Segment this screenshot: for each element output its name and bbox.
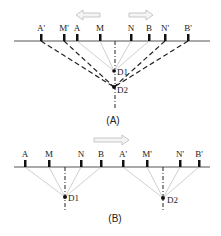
- electrode-label: B: [146, 23, 152, 33]
- electrode-labels: A' M' A M N B N' B': [37, 23, 192, 33]
- electrode-label: M: [96, 23, 104, 33]
- d1-ray-lines: [77, 41, 149, 71]
- arrow-left-icon: [76, 10, 100, 20]
- electrode-label: N: [78, 149, 85, 159]
- electrode-label: N': [161, 23, 169, 33]
- d2-ray-lines: [123, 167, 199, 198]
- electrode-label: A: [74, 23, 81, 33]
- depth-label-d2: D2: [167, 195, 178, 205]
- electrode-label: M': [142, 149, 152, 159]
- panel-a-caption: (A): [106, 115, 119, 126]
- depth-point-d1: [112, 69, 116, 73]
- panel-b-caption: (B): [108, 213, 121, 224]
- depth-point-d2: [112, 85, 116, 89]
- d1-ray-lines: [25, 167, 101, 197]
- electrode-label: M': [59, 23, 69, 33]
- electrode-label: B': [195, 149, 203, 159]
- electrode-label: A': [37, 23, 45, 33]
- electrode-label: N': [176, 149, 184, 159]
- depth-label-d2: D2: [117, 85, 128, 95]
- electrode-label: N: [128, 23, 135, 33]
- electrode-array-diagram: A' M' A M N B N' B' D1 D2 (A): [0, 0, 221, 236]
- depth-label-d1: D1: [68, 193, 79, 203]
- depth-label-d1: D1: [117, 67, 128, 77]
- electrode-label: B: [98, 149, 104, 159]
- electrode-label: A': [119, 149, 127, 159]
- electrodes: [24, 160, 201, 167]
- electrode-label: B': [184, 23, 192, 33]
- electrode-labels: A M N B A' M' N' B': [22, 149, 203, 159]
- panel-b: A M N B A' M' N' B' D1 D2 (B): [14, 135, 210, 224]
- electrode-label: M: [45, 149, 53, 159]
- panel-a: A' M' A M N B N' B' D1 D2 (A): [14, 10, 210, 126]
- depth-point-d1: [63, 195, 67, 199]
- electrode-label: A: [22, 149, 29, 159]
- depth-point-d2: [161, 196, 165, 200]
- electrodes: [40, 34, 190, 41]
- arrow-right-icon: [129, 10, 153, 20]
- arrow-right-icon: [94, 135, 129, 145]
